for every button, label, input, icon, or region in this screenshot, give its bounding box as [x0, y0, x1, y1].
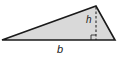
base-label: b [57, 43, 63, 55]
triangle [2, 6, 115, 40]
height-label: h [86, 14, 92, 25]
triangle-diagram: h b [0, 0, 125, 58]
